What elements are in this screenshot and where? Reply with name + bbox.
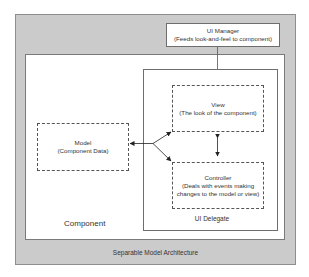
- model-box: Model (Component Data): [37, 123, 129, 171]
- ui-manager-subtitle: (Feeds look-and-feel to component): [174, 35, 272, 43]
- controller-subtitle-line2: changes to the model or view): [177, 190, 260, 198]
- architecture-label: Separable Model Architecture: [15, 249, 296, 256]
- model-title: Model: [75, 139, 92, 147]
- ui-manager-title: UI Manager: [207, 27, 239, 35]
- view-subtitle: (The look of the component): [179, 109, 256, 117]
- component-label: Component: [64, 219, 105, 228]
- controller-box: Controller (Deals with events making cha…: [172, 162, 264, 209]
- ui-manager-box: UI Manager (Feeds look-and-feel to compo…: [166, 23, 280, 47]
- view-box: View (The look of the component): [172, 85, 264, 132]
- model-subtitle: (Component Data): [58, 147, 109, 155]
- controller-title: Controller: [205, 174, 232, 182]
- controller-subtitle-line1: (Deals with events making: [182, 182, 254, 190]
- ui-delegate-label: UI Delegate: [190, 215, 234, 222]
- view-title: View: [211, 101, 224, 109]
